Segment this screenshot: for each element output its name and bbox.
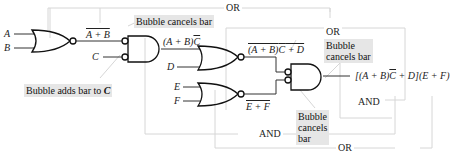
nor3-output-expr: E + F — [246, 102, 270, 112]
group-label-and-mid: AND — [356, 97, 382, 107]
nor1-output-expr: A + B — [86, 30, 110, 40]
group-label-or-bottom: OR — [336, 143, 354, 153]
input-b-label: B — [4, 43, 10, 53]
note-bubble-cancels-bar-2: Bubblecancels bar — [324, 39, 373, 63]
note-bubble-adds-bar: Bubble adds bar to C — [24, 84, 112, 97]
or-mid-box — [226, 28, 405, 100]
input-f-label: F — [174, 96, 180, 106]
note-bubble-cancels-bar-1: Bubble cancels bar — [134, 15, 214, 28]
note-bubble-cancels-bar-3: Bubblecancelsbar — [296, 110, 329, 145]
input-a-label: A — [4, 29, 10, 39]
group-label-or-mid: OR — [324, 27, 342, 37]
group-label-or-top: OR — [224, 3, 242, 13]
input-d-label: D — [167, 62, 174, 72]
nor-gate-3 — [198, 83, 244, 106]
and1-output-expr: (A + B)C — [163, 37, 200, 47]
or-top-box — [48, 8, 330, 12]
final-output-expr: [(A + B)C + D](E + F) — [355, 71, 450, 81]
group-label-and-bottom: AND — [257, 129, 283, 139]
and-gate-2 — [285, 64, 321, 90]
nor2-output-expr: (A + B)C + D — [248, 45, 304, 55]
input-c-label: C — [92, 52, 99, 62]
nor-gate-1 — [32, 30, 76, 52]
and-gate-1 — [122, 36, 159, 62]
input-e-label: E — [174, 82, 180, 92]
nor-gate-2 — [198, 46, 244, 70]
